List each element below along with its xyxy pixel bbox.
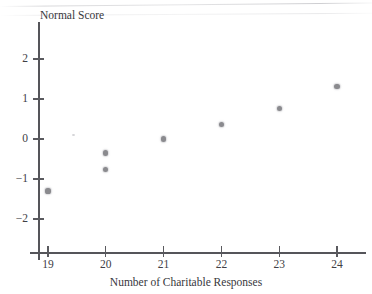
x-tick-label: 20 xyxy=(86,259,126,271)
y-tick-mark xyxy=(33,178,44,179)
scan-speck xyxy=(72,134,75,136)
x-tick-label: 23 xyxy=(259,259,299,271)
y-tick-mark xyxy=(33,98,44,99)
x-tick-mark xyxy=(105,246,106,257)
x-tick-label: 21 xyxy=(144,259,184,271)
scatter-point xyxy=(103,167,108,172)
y-tick-label: −1 xyxy=(0,173,28,185)
x-tick-mark xyxy=(47,246,48,257)
x-tick-label: 24 xyxy=(317,259,357,271)
x-tick-label: 22 xyxy=(201,259,241,271)
y-tick-mark xyxy=(33,218,44,219)
x-tick-mark xyxy=(221,246,222,257)
scatter-point xyxy=(219,122,224,127)
y-tick-label: 0 xyxy=(0,133,28,145)
x-tick-mark xyxy=(279,246,280,257)
x-axis-title: Number of Charitable Responses xyxy=(0,276,372,288)
y-tick-label: 1 xyxy=(0,93,28,105)
y-tick-label: 2 xyxy=(0,53,28,65)
scatter-point xyxy=(334,84,339,89)
y-tick-mark xyxy=(33,138,44,139)
scatter-point xyxy=(103,150,108,155)
x-tick-mark xyxy=(163,246,164,257)
y-axis-title: Normal Score xyxy=(40,9,104,21)
scan-artifact-line xyxy=(0,2,372,7)
x-tick-mark xyxy=(336,246,337,257)
scatter-point xyxy=(45,188,50,193)
y-tick-mark xyxy=(33,58,44,59)
scatter-point xyxy=(277,106,282,111)
x-axis-line xyxy=(30,252,366,254)
normal-probability-plot: Normal Score 210−1−2 192021222324 Number… xyxy=(0,0,372,294)
x-tick-label: 19 xyxy=(28,259,68,271)
scatter-point xyxy=(161,136,166,141)
y-tick-label: −2 xyxy=(0,213,28,225)
